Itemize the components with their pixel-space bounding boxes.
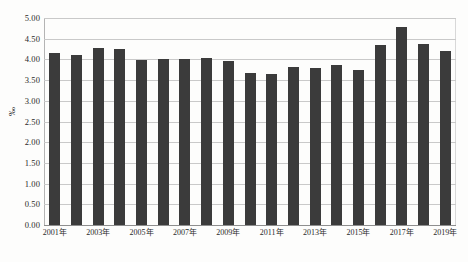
bar-slot bbox=[369, 18, 391, 225]
x-tick-label: 2009年 bbox=[216, 229, 240, 237]
x-slot bbox=[413, 227, 435, 243]
x-slot: 2019年 bbox=[434, 227, 456, 243]
y-tick-label: 4.00 bbox=[6, 55, 40, 64]
x-slot bbox=[196, 227, 218, 243]
bar-slot bbox=[239, 18, 261, 225]
bar bbox=[396, 27, 407, 225]
chart-figure: 0.000.501.001.502.002.503.003.504.004.50… bbox=[0, 0, 468, 262]
bar-slot bbox=[261, 18, 283, 225]
x-tick-label: 2007年 bbox=[173, 229, 197, 237]
bar bbox=[158, 59, 169, 225]
x-slot: 2007年 bbox=[174, 227, 196, 243]
y-tick-label: 1.50 bbox=[6, 159, 40, 168]
x-slot bbox=[152, 227, 174, 243]
bar bbox=[136, 60, 147, 225]
bar bbox=[418, 44, 429, 225]
x-tick-label: 2013年 bbox=[303, 229, 327, 237]
x-tick-label: 2015年 bbox=[346, 229, 370, 237]
bar-slot bbox=[131, 18, 153, 225]
y-tick-label: 5.00 bbox=[6, 14, 40, 23]
plot-area bbox=[44, 18, 456, 225]
x-slot: 2017年 bbox=[391, 227, 413, 243]
bar-slot bbox=[66, 18, 88, 225]
bar bbox=[223, 61, 234, 225]
bar bbox=[114, 49, 125, 225]
bar-slot bbox=[348, 18, 370, 225]
bar bbox=[71, 55, 82, 225]
bar bbox=[310, 68, 321, 225]
x-slot: 2009年 bbox=[218, 227, 240, 243]
x-slot bbox=[283, 227, 305, 243]
bar-slot bbox=[174, 18, 196, 225]
bar-slot bbox=[87, 18, 109, 225]
y-tick-label: 0.50 bbox=[6, 200, 40, 209]
bar bbox=[375, 45, 386, 225]
bar-slot bbox=[413, 18, 435, 225]
x-slot bbox=[109, 227, 131, 243]
bar bbox=[288, 67, 299, 225]
x-slot: 2015年 bbox=[348, 227, 370, 243]
x-slot bbox=[326, 227, 348, 243]
y-tick-label: 0.00 bbox=[6, 221, 40, 230]
bar bbox=[353, 70, 364, 225]
x-slot: 2005年 bbox=[131, 227, 153, 243]
grid-line bbox=[44, 225, 456, 226]
bar-slot bbox=[391, 18, 413, 225]
bar bbox=[49, 53, 60, 225]
x-slot: 2013年 bbox=[304, 227, 326, 243]
y-tick-label: 2.50 bbox=[6, 118, 40, 127]
y-tick-label: 4.50 bbox=[6, 35, 40, 44]
bar bbox=[245, 73, 256, 225]
bar bbox=[179, 59, 190, 225]
x-tick-label: 2005年 bbox=[130, 229, 154, 237]
bar-slot bbox=[283, 18, 305, 225]
x-tick-label: 2019年 bbox=[433, 229, 457, 237]
bar bbox=[201, 58, 212, 225]
bar bbox=[440, 51, 451, 225]
y-tick-label: 1.00 bbox=[6, 180, 40, 189]
x-tick-label: 2017年 bbox=[390, 229, 414, 237]
bar-slot bbox=[152, 18, 174, 225]
bar-slot bbox=[44, 18, 66, 225]
y-tick-label: 3.00 bbox=[6, 97, 40, 106]
x-tick-label: 2001年 bbox=[43, 229, 67, 237]
x-tick-label: 2011年 bbox=[260, 229, 284, 237]
bar-slot bbox=[196, 18, 218, 225]
bar-slot bbox=[326, 18, 348, 225]
x-tick-label: 2003年 bbox=[86, 229, 110, 237]
bar-slot bbox=[218, 18, 240, 225]
bar-slot bbox=[304, 18, 326, 225]
x-slot: 2001年 bbox=[44, 227, 66, 243]
y-axis-tick-labels: 0.000.501.001.502.002.503.003.504.004.50… bbox=[2, 18, 40, 225]
x-slot: 2011年 bbox=[261, 227, 283, 243]
x-slot bbox=[239, 227, 261, 243]
y-tick-label: 2.00 bbox=[6, 138, 40, 147]
bar bbox=[266, 74, 277, 225]
bar bbox=[331, 65, 342, 225]
y-axis-title: ‰ bbox=[8, 107, 17, 116]
x-axis-tick-labels: 2001年2003年2005年2007年2009年2011年2013年2015年… bbox=[44, 227, 456, 243]
bar-slot bbox=[434, 18, 456, 225]
y-tick-label: 3.50 bbox=[6, 76, 40, 85]
x-slot: 2003年 bbox=[87, 227, 109, 243]
bar-series bbox=[44, 18, 456, 225]
x-slot bbox=[66, 227, 88, 243]
figure-caption-ghost bbox=[0, 249, 468, 262]
bar-slot bbox=[109, 18, 131, 225]
bar bbox=[93, 48, 104, 225]
x-slot bbox=[369, 227, 391, 243]
